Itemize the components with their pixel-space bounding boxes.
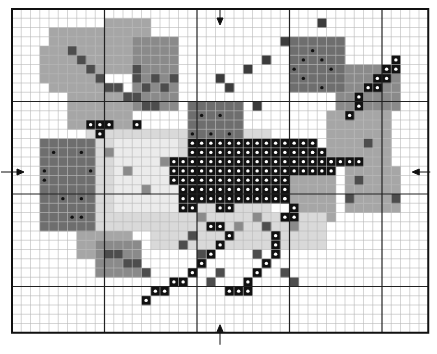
- top-center-arrow-icon: [217, 10, 223, 25]
- bottom-center-arrow-icon: [217, 325, 223, 345]
- cross-stitch-chart: [0, 0, 437, 354]
